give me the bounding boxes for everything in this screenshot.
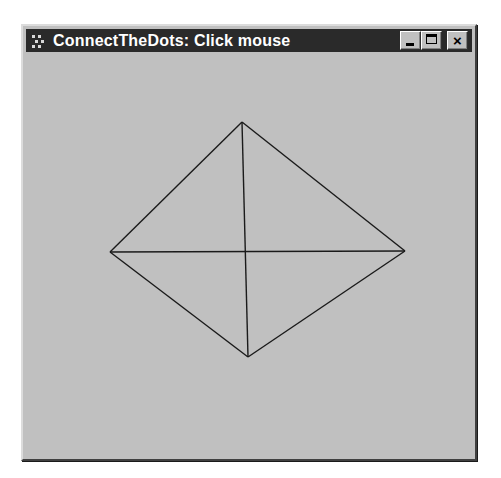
maximize-icon [426, 34, 437, 44]
window-title: ConnectTheDots: Click mouse [53, 32, 290, 50]
close-button[interactable]: × [447, 31, 468, 50]
minimize-icon [406, 43, 414, 46]
canvas-click-area[interactable] [23, 54, 475, 459]
close-icon: × [448, 32, 467, 49]
app-window: ConnectTheDots: Click mouse × [21, 24, 477, 461]
window-controls: × [400, 31, 468, 50]
application-icon[interactable] [29, 32, 47, 50]
maximize-button[interactable] [421, 31, 442, 50]
minimize-button[interactable] [400, 31, 421, 50]
title-bar[interactable]: ConnectTheDots: Click mouse × [26, 29, 472, 52]
drawing-canvas[interactable] [23, 54, 475, 459]
